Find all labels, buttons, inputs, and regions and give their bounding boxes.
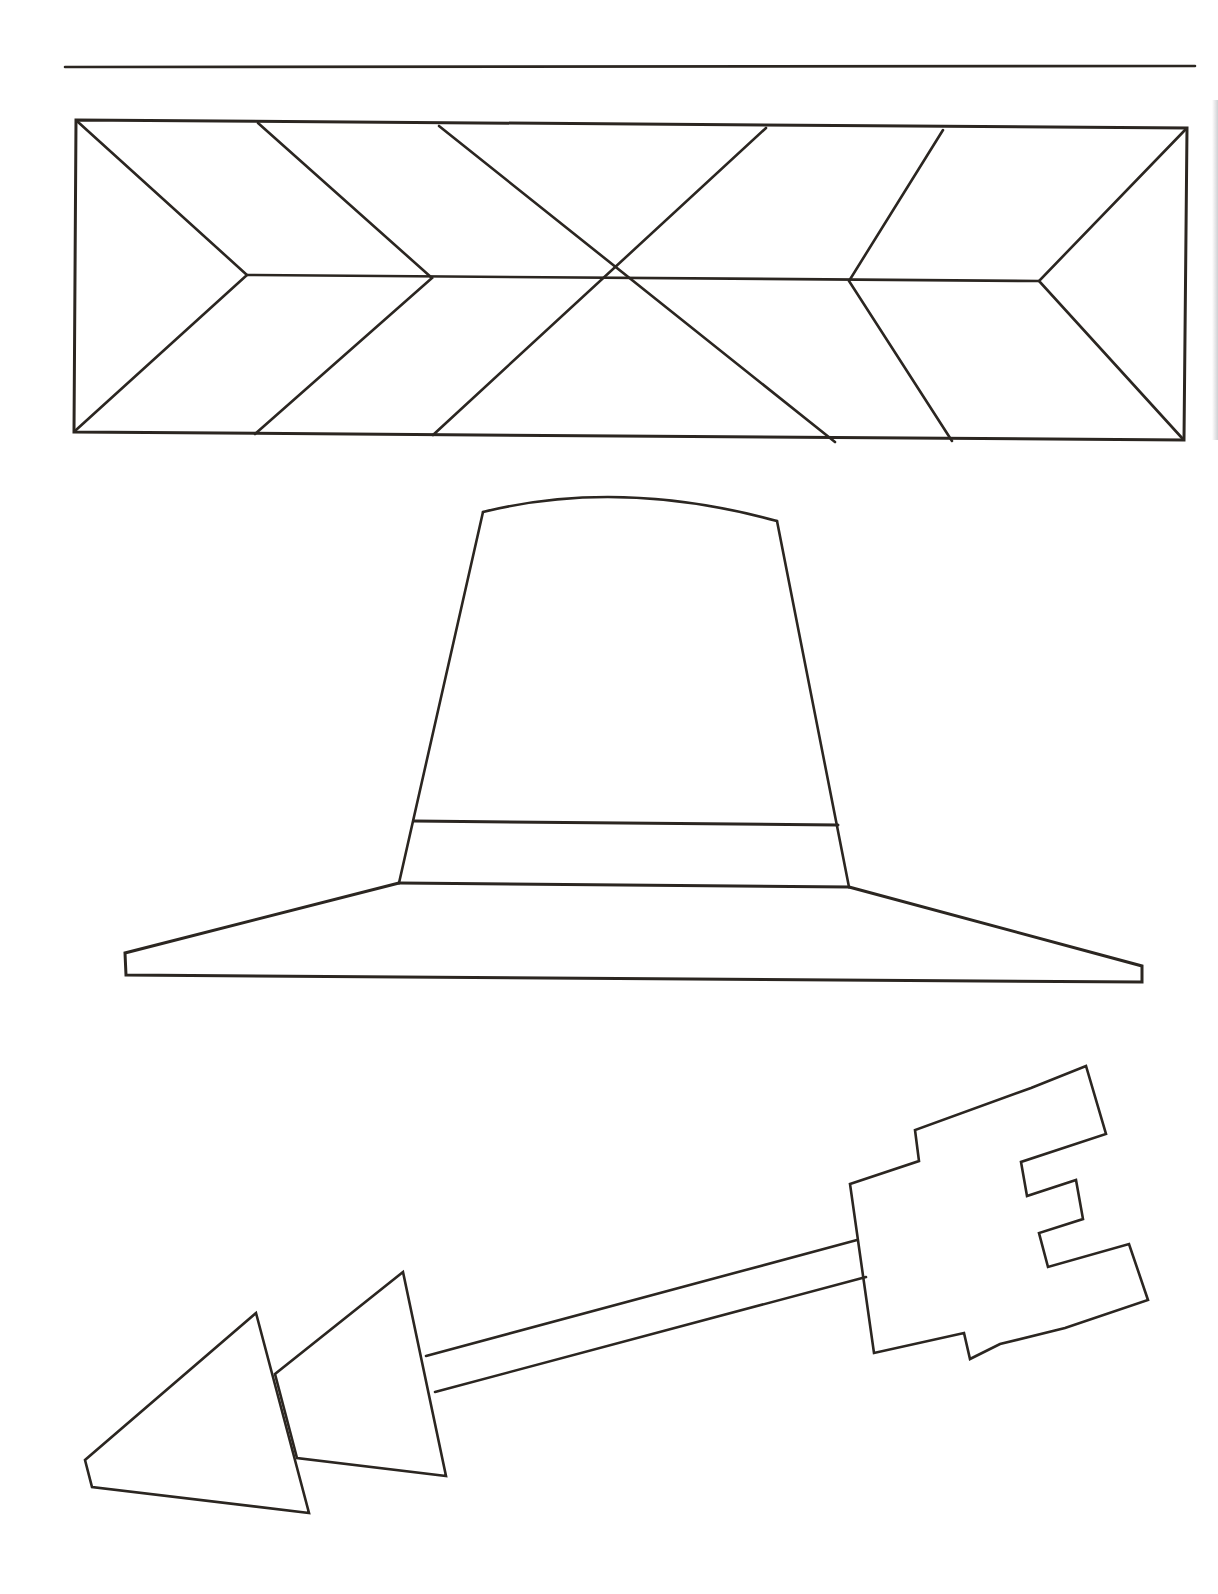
- pilgrim-hat: [125, 497, 1142, 982]
- top-rule: [65, 66, 1195, 67]
- chevron-border: [74, 120, 1187, 442]
- coloring-page-canvas: [0, 0, 1218, 1594]
- arrow: [85, 1066, 1148, 1513]
